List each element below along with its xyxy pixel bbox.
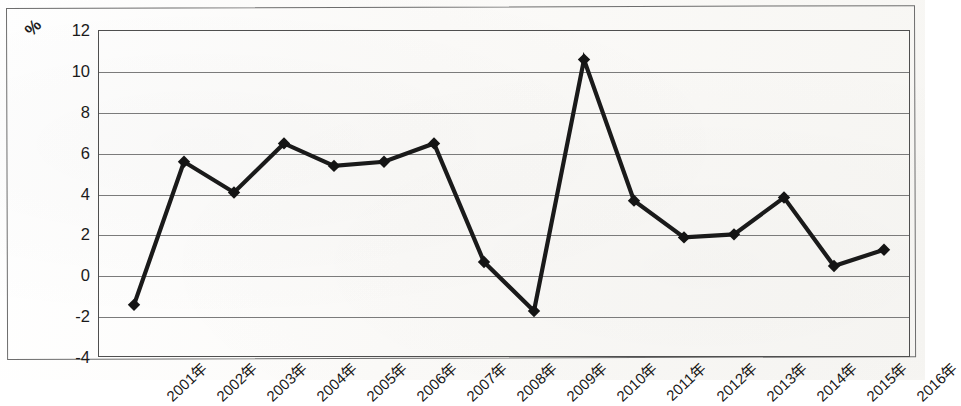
x-axis-tick: 2010年 <box>611 357 661 405</box>
x-axis-tick: 2007年 <box>461 357 511 405</box>
x-axis-tick-labels: 2001年2002年2003年2004年2005年2006年2007年2008年… <box>98 357 910 406</box>
x-axis-tick: 2013年 <box>761 357 811 405</box>
x-axis-tick: 2001年 <box>161 357 211 405</box>
y-axis-tick: 12 <box>50 21 90 40</box>
y-axis-tick: -4 <box>50 348 90 367</box>
y-axis-tick-labels: 121086420-2-4 <box>44 30 90 357</box>
data-point-marker <box>378 156 390 168</box>
x-axis-tick: 2014年 <box>811 357 861 405</box>
x-axis-tick: 2006年 <box>411 357 461 405</box>
y-axis-tick: 4 <box>50 184 90 203</box>
x-axis-tick: 2005年 <box>361 357 411 405</box>
x-axis-tick: 2012年 <box>711 357 761 405</box>
y-axis-tick: 10 <box>50 61 90 80</box>
data-point-marker <box>128 299 140 311</box>
x-axis-tick: 2015年 <box>861 357 911 405</box>
data-point-marker <box>428 137 440 149</box>
y-axis-tick: 6 <box>50 143 90 162</box>
x-axis-tick: 2016年 <box>911 357 961 405</box>
x-axis-tick: 2002年 <box>211 357 261 405</box>
data-point-marker <box>878 243 890 255</box>
data-point-marker <box>328 160 340 172</box>
x-axis-tick: 2008年 <box>511 357 561 405</box>
y-axis-tick: 0 <box>50 266 90 285</box>
x-axis-tick: 2004年 <box>311 357 361 405</box>
data-series-layer <box>99 31 911 358</box>
x-axis-tick: 2009年 <box>561 357 611 405</box>
data-point-marker <box>578 53 590 65</box>
x-axis-tick: 2003年 <box>261 357 311 405</box>
y-axis-tick: 8 <box>50 102 90 121</box>
plot-area <box>98 30 910 357</box>
y-axis-tick: -2 <box>50 307 90 326</box>
x-axis-tick: 2011年 <box>661 357 710 405</box>
series-line <box>134 60 884 311</box>
y-axis-tick: 2 <box>50 225 90 244</box>
